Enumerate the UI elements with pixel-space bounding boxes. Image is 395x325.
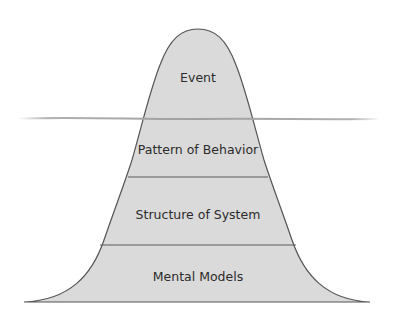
layer-label-pattern-of-behavior: Pattern of Behavior bbox=[138, 142, 259, 157]
layer-label-mental-models: Mental Models bbox=[153, 269, 243, 284]
iceberg-diagram: Event Pattern of Behavior Structure of S… bbox=[0, 0, 395, 325]
layer-label-event: Event bbox=[180, 70, 216, 85]
layer-label-structure-of-system: Structure of System bbox=[136, 207, 261, 222]
